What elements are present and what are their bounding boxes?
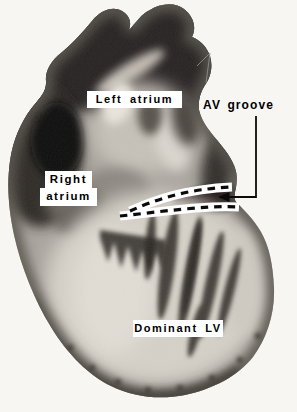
left-atrium-label: Left atrium [87,91,182,108]
right-atrium-label-line1: Right [45,171,92,189]
right-atrium-label-line2: atrium [40,188,97,206]
av-groove-label: AV groove [203,97,274,112]
dominant-lv-label: Dominant LV [133,320,223,337]
heart-specimen-figure: Left atrium AV groove Right atrium Domin… [0,0,297,412]
heart-photo [0,0,297,412]
